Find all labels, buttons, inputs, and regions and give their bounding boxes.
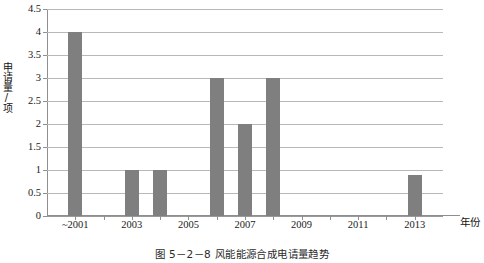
y-axis-tick	[43, 55, 47, 56]
x-axis-title: 年份	[460, 216, 480, 228]
bar	[408, 175, 422, 216]
bar	[238, 124, 252, 216]
y-axis-tick	[43, 147, 47, 148]
plot-area	[47, 9, 443, 216]
x-axis-extension	[443, 215, 460, 216]
y-axis-tick	[43, 124, 47, 125]
y-axis-tick	[43, 193, 47, 194]
y-axis-tick-label: 1	[1, 165, 41, 175]
x-axis-tick-label: 2011	[334, 219, 382, 231]
x-axis-tick	[386, 216, 387, 220]
x-axis-tick	[330, 216, 331, 220]
y-axis-tick	[43, 101, 47, 102]
bar	[125, 170, 139, 216]
x-axis-tick-label: 2013	[391, 219, 439, 231]
y-axis-tick-label: 4	[1, 27, 41, 37]
bar	[210, 78, 224, 216]
bar-chart-figure: 申请量/项 年份 图 5－2－8 风能能源合成电请量趋势 00.511.522.…	[0, 0, 484, 263]
gridline	[47, 101, 443, 102]
gridline	[47, 9, 443, 10]
y-axis-tick	[43, 32, 47, 33]
figure-caption: 图 5－2－8 风能能源合成电请量趋势	[0, 248, 484, 263]
gridline	[47, 32, 443, 33]
x-axis-tick	[273, 216, 274, 220]
y-axis-tick-label: 3.5	[1, 50, 41, 60]
y-axis-tick-label: 0	[1, 211, 41, 221]
x-axis-tick	[104, 216, 105, 220]
plot-inner	[47, 9, 443, 216]
bar	[266, 78, 280, 216]
bar	[68, 32, 82, 216]
bar	[153, 170, 167, 216]
x-axis-tick-label: ~2001	[51, 219, 99, 231]
gridline	[47, 78, 443, 79]
y-axis-line	[47, 9, 48, 216]
y-axis-tick	[43, 216, 47, 217]
x-axis-tick-label: 2005	[164, 219, 212, 231]
y-axis-tick-label: 2	[1, 119, 41, 129]
y-axis-tick-label: 3	[1, 73, 41, 83]
x-axis-tick	[160, 216, 161, 220]
y-axis-tick	[43, 78, 47, 79]
y-axis-tick	[43, 9, 47, 10]
y-axis-tick-label: 1.5	[1, 142, 41, 152]
x-axis-tick-label: 2007	[221, 219, 269, 231]
y-axis-tick-label: 4.5	[1, 4, 41, 14]
gridline	[47, 55, 443, 56]
y-axis-tick-label: 2.5	[1, 96, 41, 106]
x-axis-tick-label: 2009	[278, 219, 326, 231]
y-axis-tick-label: 0.5	[1, 188, 41, 198]
x-axis-tick	[217, 216, 218, 220]
x-axis-tick-label: 2003	[108, 219, 156, 231]
y-axis-tick	[43, 170, 47, 171]
